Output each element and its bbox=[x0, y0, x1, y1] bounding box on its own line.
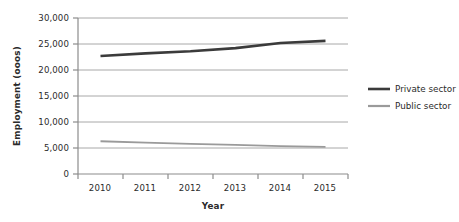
y-tick-label: 25,000 bbox=[38, 39, 69, 49]
y-tick-label: 20,000 bbox=[38, 65, 69, 75]
legend-label-public-sector: Public sector bbox=[395, 101, 451, 111]
legend-label-private-sector: Private sector bbox=[395, 84, 456, 94]
x-axis-title: Year bbox=[201, 201, 225, 211]
x-tick-label: 2010 bbox=[89, 183, 111, 193]
chart-container: 30,000 25,000 20,000 15,000 10,000 5,000… bbox=[0, 0, 459, 222]
line-chart: 30,000 25,000 20,000 15,000 10,000 5,000… bbox=[0, 0, 459, 222]
x-tick-label: 2013 bbox=[224, 183, 246, 193]
y-tick-label: 15,000 bbox=[38, 91, 69, 101]
x-tick-label: 2012 bbox=[179, 183, 201, 193]
y-tick-label: 5,000 bbox=[44, 143, 69, 153]
y-tick-label: 30,000 bbox=[38, 13, 69, 23]
x-tick-label: 2015 bbox=[314, 183, 336, 193]
y-tick-label: 0 bbox=[63, 169, 69, 179]
y-tick-label: 10,000 bbox=[38, 117, 69, 127]
x-tick-label: 2011 bbox=[134, 183, 156, 193]
y-axis-title: Employment (ooos) bbox=[12, 46, 22, 146]
x-tick-label: 2014 bbox=[269, 183, 291, 193]
